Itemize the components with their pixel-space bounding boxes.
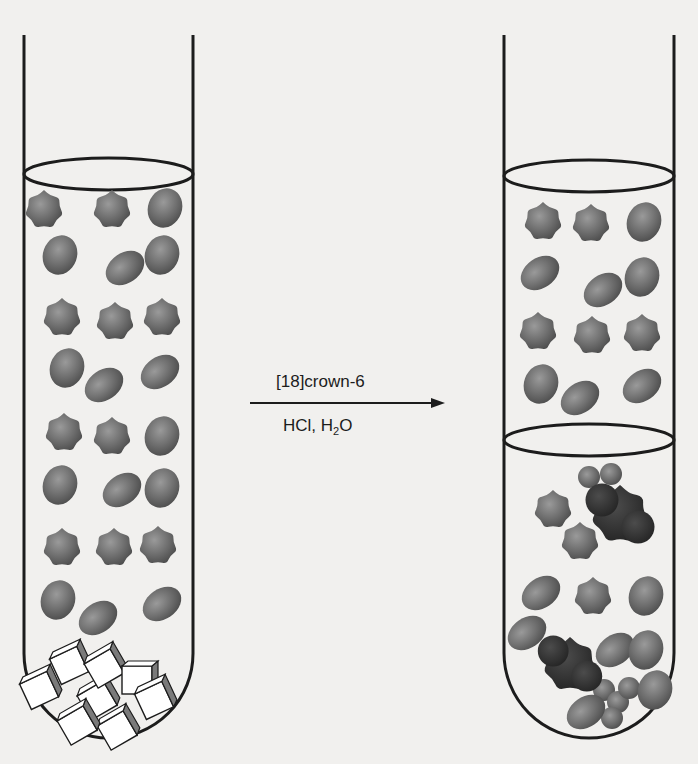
molecule-icon <box>97 302 133 339</box>
molecule-icon <box>78 361 130 410</box>
reagent-label-crown-ether: [18]crown-6 <box>276 372 365 392</box>
ion-sphere-icon <box>600 463 622 485</box>
reaction-arrow <box>250 398 445 408</box>
reagent-text-o: O <box>339 416 352 435</box>
molecule-icon <box>514 249 566 298</box>
molecule-icon <box>525 202 561 239</box>
molecule-icon <box>574 316 610 353</box>
molecule-icon <box>621 197 667 246</box>
molecule-icon <box>624 314 660 351</box>
molecule-icon <box>554 374 606 423</box>
molecule-icon <box>37 230 83 279</box>
molecule-icon <box>35 575 81 624</box>
ion-sphere-icon <box>618 677 640 699</box>
meniscus <box>24 158 193 190</box>
molecule-icon <box>72 594 124 643</box>
molecule-icon <box>136 580 188 629</box>
molecule-icon <box>515 569 567 618</box>
molecule-icon <box>520 312 556 349</box>
molecule-icon <box>573 204 609 241</box>
molecule-icon <box>99 244 151 293</box>
molecule-icon <box>134 348 186 397</box>
crown-complex-icon <box>538 636 602 692</box>
molecule-icon <box>44 298 80 335</box>
molecule-icon <box>139 463 185 512</box>
molecule-icon <box>46 413 82 450</box>
diagram-stage: [18]crown-6 HCl, H2O <box>0 0 698 764</box>
molecule-icon <box>37 460 83 509</box>
molecule-icon <box>619 252 665 301</box>
molecule-icon <box>96 466 148 515</box>
molecule-icon <box>577 266 629 315</box>
reagent-label-hcl-water: HCl, H2O <box>283 416 352 437</box>
molecule-icon <box>44 528 80 565</box>
molecule-icon <box>44 343 90 392</box>
crown-complex-icon <box>586 484 655 544</box>
molecule-icon <box>144 298 180 335</box>
meniscus <box>504 160 674 192</box>
molecule-icon <box>96 528 132 565</box>
molecule-icon <box>575 577 611 614</box>
molecule-icon <box>518 359 564 408</box>
right-test-tube <box>501 35 678 738</box>
molecule-icon <box>139 230 185 279</box>
molecule-icon <box>623 625 669 674</box>
molecule-icon <box>616 362 668 411</box>
molecule-icon <box>140 526 176 563</box>
molecule-icon <box>623 571 669 620</box>
left-test-tube <box>17 35 193 750</box>
molecule-icon <box>142 183 188 232</box>
molecule-icon <box>562 522 598 559</box>
molecule-icon <box>535 490 571 527</box>
meniscus <box>504 424 674 456</box>
molecule-icon <box>139 411 185 460</box>
molecule-icon <box>94 417 130 454</box>
reagent-text: HCl, H <box>283 416 333 435</box>
molecule-icon <box>94 190 130 227</box>
molecule-icon <box>26 190 62 227</box>
arrow-head-icon <box>431 398 445 408</box>
